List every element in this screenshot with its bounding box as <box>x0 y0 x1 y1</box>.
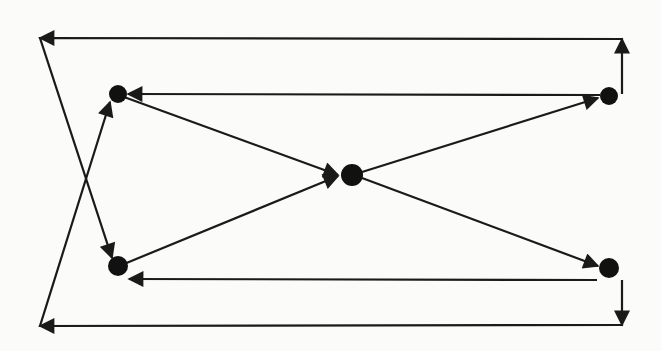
edge-center-to-top-right <box>362 98 598 172</box>
nodes-group <box>108 85 619 278</box>
node-top-left <box>109 85 127 103</box>
node-bottom-right <box>599 258 619 278</box>
edge-top-right-to-top-left <box>128 94 600 95</box>
node-bottom-left <box>108 256 128 276</box>
directed-graph-diagram <box>0 0 661 351</box>
edge-center-to-bottom-right <box>362 178 598 266</box>
edge-bottom-right-loop-to-top-left <box>40 102 622 326</box>
edge-top-left-to-center <box>124 97 338 175</box>
edges-group <box>40 38 622 326</box>
edge-bottom-left-to-center <box>124 176 338 264</box>
node-center <box>341 164 363 186</box>
edge-top-right-loop-to-bottom-left <box>40 38 622 258</box>
node-top-right <box>600 87 618 105</box>
edge-bottom-right-to-bottom-left <box>129 279 597 280</box>
